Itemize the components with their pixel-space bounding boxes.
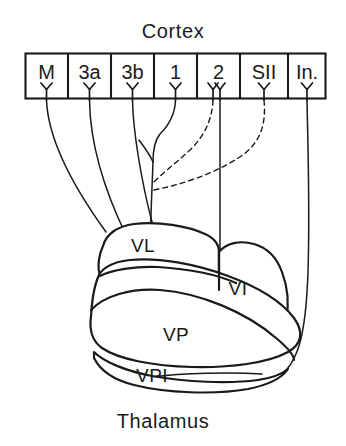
cortex-area-label-2: 2 [213, 61, 224, 83]
nucleus-label-VL: VL [131, 235, 155, 256]
projection-1-branch-upper [153, 100, 176, 162]
nucleus-label-VP: VP [163, 324, 189, 345]
nucleus-label-VPI: VPI [136, 365, 168, 386]
diagram-canvas: Cortex M 3a 3b 1 2 SII In. [0, 0, 346, 446]
cortex-area-label-M: M [38, 61, 55, 83]
cortex-area-label-3a: 3a [78, 61, 101, 83]
cortex-area-label-3b: 3b [121, 61, 143, 83]
cortex-area-label-1: 1 [170, 61, 181, 83]
projection-2-to-VP-dashed [152, 100, 213, 184]
cortex-area-label-In: In. [296, 61, 318, 83]
thalamus-title: Thalamus [117, 410, 210, 432]
projection-SII-to-VP-dashed [154, 100, 264, 190]
nucleus-label-VI: VI [229, 278, 248, 299]
thalamocortical-diagram: Cortex M 3a 3b 1 2 SII In. [0, 0, 346, 446]
projection-M-to-VL [47, 100, 107, 232]
cortex-title: Cortex [142, 20, 205, 42]
cortex-area-label-SII: SII [252, 61, 276, 83]
projection-1-branch-lower [139, 140, 153, 162]
